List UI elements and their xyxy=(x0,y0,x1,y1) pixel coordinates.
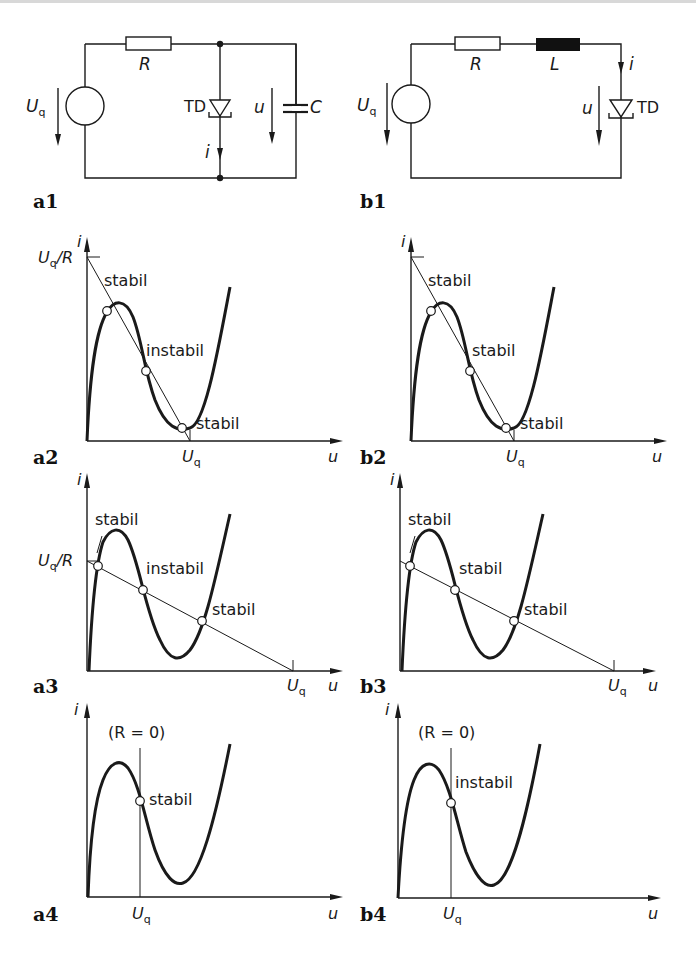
resistor-label: R xyxy=(139,56,151,73)
point-label-1: stabil xyxy=(149,792,192,808)
chart-a4: i (R = 0) stabil Uq u a4 xyxy=(0,700,348,963)
condition-label: (R = 0) xyxy=(418,725,475,741)
inductor-label: L xyxy=(550,56,559,73)
y-axis-label: i xyxy=(74,702,78,718)
x-tick-label: Uq xyxy=(287,678,306,694)
x-axis-label: u xyxy=(648,906,658,922)
voltage-label: u xyxy=(582,100,593,117)
x-axis-label: u xyxy=(648,678,658,694)
y-axis-label: i xyxy=(77,234,81,250)
diode-label: TD xyxy=(637,100,659,116)
panel-id-a4: a4 xyxy=(33,903,59,925)
capacitor-label: C xyxy=(310,99,322,116)
voltage-label: u xyxy=(254,99,265,116)
point-label-3: stabil xyxy=(520,416,563,432)
point-label-1: stabil xyxy=(428,273,471,289)
point-label-2: instabil xyxy=(146,561,204,577)
x-axis-label: u xyxy=(328,678,338,694)
source-label: Uq xyxy=(26,98,45,115)
x-axis-label: u xyxy=(328,449,338,465)
condition-label: (R = 0) xyxy=(108,725,165,741)
x-axis-label: u xyxy=(328,906,338,922)
point-label-1: instabil xyxy=(455,775,513,791)
point-label-1: stabil xyxy=(104,273,147,289)
panel-id-b1: b1 xyxy=(360,190,387,212)
chart-a3: i stabil Uq/R instabil stabil Uq u a3 xyxy=(0,470,348,700)
chart-a3-plot xyxy=(0,470,348,700)
point-label-1: stabil xyxy=(95,512,138,528)
current-label: i xyxy=(205,144,210,161)
chart-b4: i (R = 0) instabil Uq u b4 xyxy=(348,700,696,963)
chart-b3: i stabil stabil stabil Uq u b3 xyxy=(348,470,696,700)
point-label-2: stabil xyxy=(459,561,502,577)
circuit-a1-drawing xyxy=(0,0,348,220)
resistor-label: R xyxy=(470,56,482,73)
point-label-1: stabil xyxy=(408,512,451,528)
point-label-2: stabil xyxy=(472,343,515,359)
panel-id-a1: a1 xyxy=(33,190,59,212)
panel-id-a3: a3 xyxy=(33,675,59,697)
source-label: Uq xyxy=(357,97,376,114)
circuit-a1: R Uq TD u C i a1 xyxy=(0,0,348,220)
x-tick-label: Uq xyxy=(608,678,627,694)
circuit-b1: R L i Uq u TD b1 xyxy=(348,0,696,220)
chart-b3-plot xyxy=(348,470,696,700)
chart-b2: i stabil stabil stabil Uq u b2 xyxy=(348,220,696,470)
x-tick-label: Uq xyxy=(506,449,525,465)
chart-b4-plot xyxy=(348,700,696,963)
x-tick-label: Uq xyxy=(443,906,462,922)
x-tick-label: Uq xyxy=(132,906,151,922)
panel-id-a2: a2 xyxy=(33,446,59,468)
current-label: i xyxy=(629,56,634,73)
point-label-3: stabil xyxy=(196,416,239,432)
panel-id-b3: b3 xyxy=(360,675,387,697)
panel-id-b4: b4 xyxy=(360,903,387,925)
y-axis-label: i xyxy=(385,702,389,718)
y-axis-label: i xyxy=(401,234,405,250)
point-label-3: stabil xyxy=(212,602,255,618)
y-tick-label: Uq/R xyxy=(38,250,73,266)
x-axis-label: u xyxy=(652,449,662,465)
y-tick-label: Uq/R xyxy=(38,553,73,569)
diode-label: TD xyxy=(184,99,206,115)
chart-a2: i Uq/R stabil instabil stabil Uq u a2 xyxy=(0,220,348,470)
y-axis-label: i xyxy=(77,472,81,488)
point-label-2: instabil xyxy=(146,343,204,359)
y-axis-label: i xyxy=(390,472,394,488)
panel-id-b2: b2 xyxy=(360,446,387,468)
x-tick-label: Uq xyxy=(182,449,201,465)
point-label-3: stabil xyxy=(524,602,567,618)
